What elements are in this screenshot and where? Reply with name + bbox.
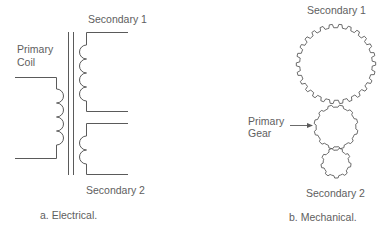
secondary-1-gear — [296, 24, 375, 103]
secondary-1-winding — [80, 33, 129, 112]
primary-gear — [314, 105, 358, 149]
primary-gear-arrow — [290, 123, 313, 128]
mechanical-secondary-1-label: Secondary 1 — [307, 4, 366, 16]
mechanical-primary-gear-label-line2: Gear — [248, 127, 271, 139]
secondary-2-winding — [80, 124, 129, 175]
secondary-2-gear — [321, 148, 351, 178]
mechanical-secondary-2-label: Secondary 2 — [306, 187, 365, 199]
mechanical-primary-gear-label-line1: Primary — [248, 115, 284, 127]
gear-train — [296, 24, 375, 178]
primary-coil-winding — [15, 78, 64, 159]
mechanical-caption: b. Mechanical. — [289, 211, 357, 223]
